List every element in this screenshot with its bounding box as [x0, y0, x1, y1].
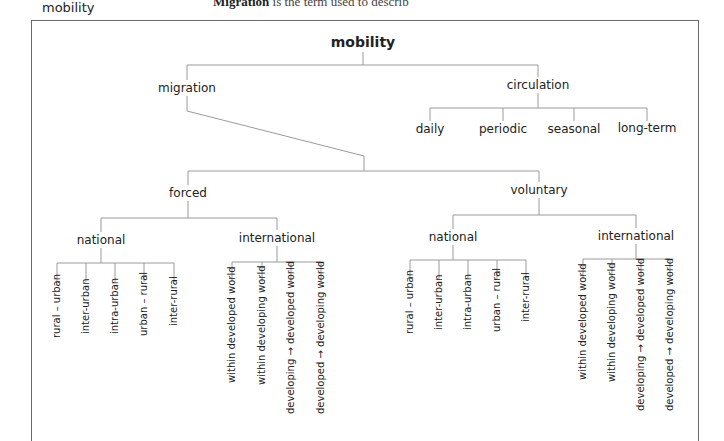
node-long-term: long-term	[618, 121, 677, 135]
leaf-forced-inter-urban: inter-urban	[80, 278, 91, 334]
leaf-voluntary-developing-to-developed: developing → developed world	[635, 258, 646, 411]
leaf-voluntary-inter-rural: inter-rural	[520, 272, 531, 322]
leaf-voluntary-intra-urban: intra-urban	[462, 274, 473, 330]
node-forced-national: national	[77, 233, 126, 247]
node-forced: forced	[169, 186, 207, 200]
leaf-forced-urban-rural: urban – rural	[138, 272, 149, 336]
leaf-voluntary-inter-urban: inter-urban	[433, 274, 444, 330]
leaf-forced-developed-to-developing: developed → developing world	[315, 261, 326, 414]
leaf-voluntary-within-developing: within developing world	[606, 262, 617, 382]
node-voluntary-international: international	[598, 229, 674, 243]
node-daily: daily	[416, 122, 445, 136]
node-voluntary-national: national	[429, 230, 478, 244]
node-periodic: periodic	[479, 122, 527, 136]
leaf-forced-within-developing: within developing world	[256, 265, 267, 385]
leaf-forced-intra-urban: intra-urban	[109, 278, 120, 334]
node-mobility: mobility	[331, 34, 395, 50]
leaf-voluntary-within-developed: within developed world	[577, 263, 588, 380]
leaf-forced-inter-rural: inter-rural	[168, 276, 179, 326]
node-voluntary: voluntary	[510, 183, 567, 197]
leaf-forced-within-developed: within developed world	[226, 266, 237, 383]
leaf-forced-rural-urban: rural – urban	[51, 274, 62, 338]
node-seasonal: seasonal	[548, 122, 601, 136]
leaf-voluntary-urban-rural: urban – rural	[491, 268, 502, 332]
node-forced-international: international	[239, 231, 315, 245]
node-migration: migration	[158, 81, 216, 95]
leaf-forced-developing-to-developed: developing → developed world	[285, 261, 296, 414]
leaf-voluntary-rural-urban: rural – urban	[404, 270, 415, 334]
leaf-voluntary-developed-to-developing: developed → developing world	[664, 258, 675, 411]
node-circulation: circulation	[507, 78, 569, 92]
